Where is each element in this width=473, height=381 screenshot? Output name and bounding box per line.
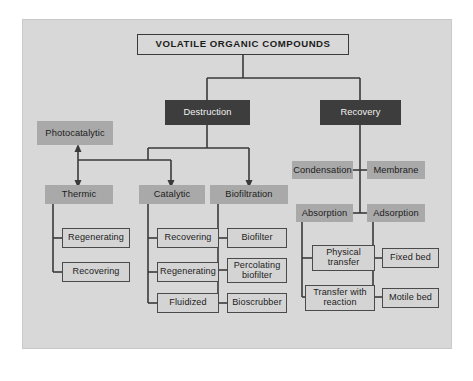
node-physical-transfer: Physical transfer [312, 245, 375, 271]
diagram-root: VOLATILE ORGANIC COMPOUNDS Destruction R… [0, 0, 473, 381]
node-photocatalytic: Photocatalytic [37, 121, 113, 145]
node-volatile-organic-compounds: VOLATILE ORGANIC COMPOUNDS [137, 34, 349, 55]
node-thermic-recovering: Recovering [62, 262, 130, 282]
node-absorption: Absorption [296, 204, 353, 222]
node-transfer-with-reaction: Transfer with reaction [305, 285, 375, 311]
node-catalytic: Catalytic [139, 185, 205, 204]
node-destruction: Destruction [165, 100, 250, 125]
node-thermic: Thermic [45, 185, 113, 204]
node-biofilter: Biofilter [227, 228, 287, 248]
node-membrane: Membrane [367, 161, 425, 179]
node-adsorption: Adsorption [367, 204, 425, 222]
node-percolating-biofilter: Percolating biofilter [227, 258, 287, 283]
node-recovery: Recovery [320, 100, 401, 125]
node-motile-bed: Motile bed [382, 288, 439, 308]
node-thermic-regenerating: Regenerating [62, 228, 130, 248]
node-bioscrubber: Bioscrubber [227, 293, 287, 313]
node-fixed-bed: Fixed bed [382, 248, 439, 268]
node-catalytic-fluidized: Fluidized [157, 293, 219, 313]
node-catalytic-recovering: Recovering [157, 228, 219, 248]
node-biofiltration: Biofiltration [210, 185, 288, 204]
node-condensation: Condensation [292, 161, 353, 179]
node-catalytic-regenerating: Regenerating [157, 262, 219, 282]
